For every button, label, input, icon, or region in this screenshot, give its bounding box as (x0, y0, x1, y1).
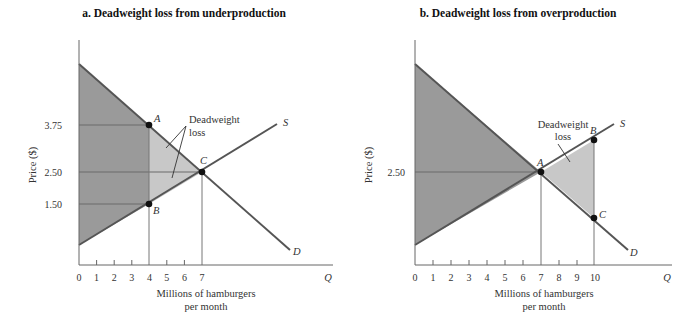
svg-text:4: 4 (485, 272, 490, 283)
chart-a-point-b-label: B (153, 205, 160, 216)
chart-b-deadweight-label-line2: loss (555, 131, 571, 142)
svg-text:2: 2 (112, 272, 117, 283)
chart-b-x-label-line1: Millions of hamburgers (495, 288, 594, 299)
chart-b-x-tick-labels: 0 1 2 3 4 5 6 7 8 9 10 (413, 272, 601, 283)
chart-a-supply-label: S (283, 117, 289, 128)
chart-b-surplus-area (415, 64, 541, 245)
chart-a-x-label-line2: per month (185, 301, 229, 312)
chart-a-x-label-line1: Millions of hamburgers (157, 288, 256, 299)
svg-text:1: 1 (94, 272, 99, 283)
svg-text:3: 3 (467, 272, 472, 283)
svg-text:5: 5 (503, 272, 508, 283)
chart-a-surplus-area (79, 64, 149, 245)
chart-b-x-label-line2: per month (523, 301, 567, 312)
svg-text:3: 3 (129, 272, 134, 283)
chart-b-demand-label: D (629, 247, 638, 258)
chart-b-point-b-label: B (590, 125, 597, 136)
figure-canvas: a. Deadweight loss from underproduction … (0, 0, 691, 325)
chart-b-point-c-label: C (599, 209, 607, 220)
svg-text:7: 7 (200, 272, 205, 283)
chart-b-y-label: Price ($) (363, 146, 375, 183)
svg-text:6: 6 (521, 272, 526, 283)
svg-text:0: 0 (77, 272, 82, 283)
chart-b: b. Deadweight loss from overproduction 0 (363, 7, 672, 312)
chart-a-x-tick-labels: 0 1 2 3 4 5 6 7 (77, 272, 205, 283)
chart-a-x-ticks (97, 260, 185, 265)
chart-a-point-c (199, 169, 206, 176)
chart-a-title: a. Deadweight loss from underproduction (82, 7, 286, 20)
chart-a-y-tick-375: 3.75 (45, 120, 63, 131)
chart-a-deadweight-label-line2: loss (189, 127, 205, 138)
chart-a-point-a-label: A (153, 113, 161, 124)
chart-b-point-a (538, 169, 545, 176)
chart-b-title: b. Deadweight loss from overproduction (420, 7, 617, 20)
chart-a-point-c-label: C (200, 155, 208, 166)
chart-a-point-a (146, 122, 153, 129)
chart-b-point-c (591, 215, 598, 222)
svg-text:9: 9 (575, 272, 580, 283)
svg-text:1: 1 (431, 272, 436, 283)
svg-text:8: 8 (557, 272, 562, 283)
svg-text:2: 2 (449, 272, 454, 283)
chart-a-q-label: Q (324, 272, 332, 283)
chart-a: a. Deadweight loss from underproduction … (27, 7, 333, 312)
chart-b-q-label: Q (663, 272, 671, 283)
svg-text:4: 4 (147, 272, 152, 283)
chart-b-point-a-label: A (536, 157, 544, 168)
chart-b-point-b (591, 137, 598, 144)
svg-text:10: 10 (590, 272, 600, 283)
chart-b-y-tick-250: 2.50 (388, 167, 406, 178)
svg-text:5: 5 (164, 272, 169, 283)
chart-b-deadweight-label-line1: Deadweight (538, 119, 589, 130)
chart-a-demand-label: D (292, 246, 301, 257)
chart-a-y-tick-150: 1.50 (45, 199, 63, 210)
chart-b-x-ticks (433, 260, 577, 265)
svg-text:6: 6 (182, 272, 187, 283)
chart-a-point-b (146, 201, 153, 208)
chart-a-deadweight-label-line1: Deadweight (189, 114, 240, 125)
svg-text:0: 0 (413, 272, 418, 283)
chart-a-y-label: Price ($) (27, 146, 39, 183)
chart-a-y-tick-250: 2.50 (45, 167, 63, 178)
svg-text:7: 7 (539, 272, 544, 283)
chart-b-supply-label: S (620, 118, 626, 129)
